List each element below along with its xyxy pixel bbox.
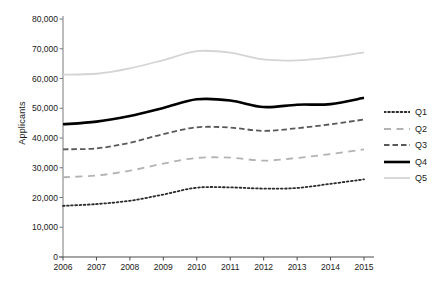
series-line-q3 (63, 120, 364, 150)
series-line-q4 (63, 98, 364, 124)
legend-label: Q4 (415, 157, 427, 167)
y-axis-tick-label: 30,000 (16, 163, 58, 173)
y-axis-tick-label: 80,000 (16, 14, 58, 24)
plot-area (0, 0, 443, 289)
legend-label: Q5 (415, 173, 427, 183)
chart-legend: Q1Q2Q3Q4Q5 (384, 104, 442, 187)
series-line-q5 (63, 51, 364, 75)
legend-item-q2[interactable]: Q2 (384, 121, 442, 138)
y-axis-tick-label: 10,000 (16, 222, 58, 232)
y-axis-tick-label: 0 (16, 252, 58, 262)
y-axis-tick-label: 70,000 (16, 44, 58, 54)
legend-swatch-q5 (384, 173, 410, 183)
series-line-q2 (63, 149, 364, 177)
line-chart: Applicants 010,00020,00030,00040,00050,0… (0, 0, 443, 289)
legend-item-q1[interactable]: Q1 (384, 104, 442, 121)
legend-item-q3[interactable]: Q3 (384, 137, 442, 154)
y-axis-tick-label: 60,000 (16, 74, 58, 84)
legend-label: Q2 (415, 124, 427, 134)
legend-label: Q1 (415, 107, 427, 117)
y-axis-tick-label: 40,000 (16, 133, 58, 143)
legend-label: Q3 (415, 140, 427, 150)
y-axis-tick-labels: 010,00020,00030,00040,00050,00060,00070,… (14, 0, 58, 289)
y-axis-tick-label: 50,000 (16, 103, 58, 113)
x-axis-tick-label: 2015 (344, 262, 384, 272)
legend-item-q5[interactable]: Q5 (384, 170, 442, 187)
legend-swatch-q1 (384, 107, 410, 117)
legend-swatch-q3 (384, 140, 410, 150)
series-line-q1 (63, 179, 364, 205)
legend-swatch-q2 (384, 124, 410, 134)
legend-swatch-q4 (384, 157, 410, 167)
y-axis-tick-label: 20,000 (16, 193, 58, 203)
legend-item-q4[interactable]: Q4 (384, 154, 442, 171)
